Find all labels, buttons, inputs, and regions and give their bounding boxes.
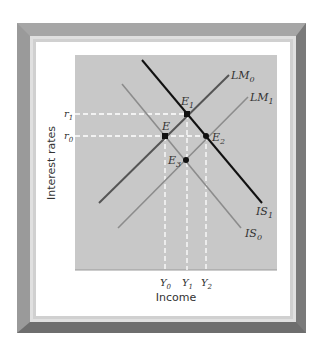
point-e1 — [184, 111, 190, 117]
x-tick-y1: Y1 — [182, 277, 193, 291]
x-tick-y2: Y2 — [201, 277, 213, 291]
point-e2 — [203, 133, 209, 139]
is-lm-diagram: E E1 E2 E3 LM0 LM1 IS0 IS1 r1 r0 Y0 Y1 Y… — [0, 0, 323, 348]
point-label-e: E — [161, 120, 170, 133]
point-e — [162, 133, 168, 139]
y-tick-r0: r0 — [64, 130, 74, 144]
x-tick-y0: Y0 — [160, 277, 172, 291]
x-axis-title: Income — [156, 291, 197, 304]
y-tick-r1: r1 — [64, 108, 73, 122]
y-axis-title: Interest rates — [45, 126, 58, 200]
point-e3 — [183, 157, 189, 163]
